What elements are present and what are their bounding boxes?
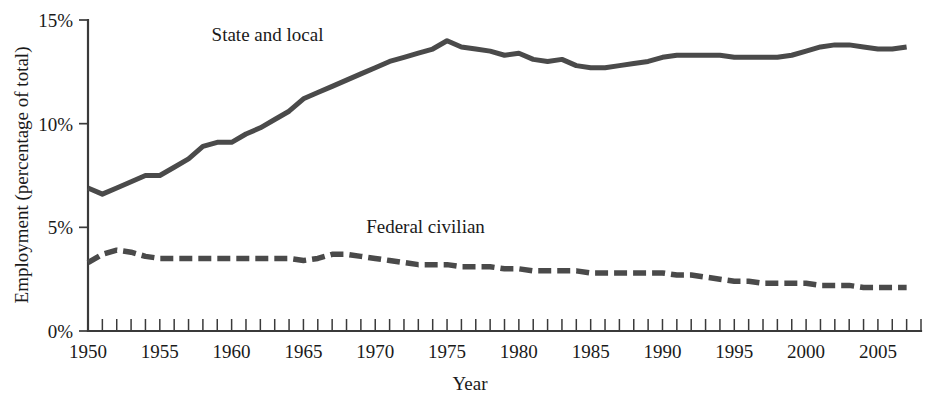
y-tick-label: 15% (38, 10, 73, 31)
x-tick-label: 2000 (787, 341, 825, 362)
x-axis-title: Year (452, 373, 488, 394)
x-tick-label: 2005 (859, 341, 897, 362)
x-tick-label: 1955 (141, 341, 179, 362)
y-tick-label: 0% (48, 321, 74, 342)
x-axis-minor-ticks (88, 319, 921, 331)
y-axis-tick-labels: 0%5%10%15% (38, 10, 73, 342)
y-tick-label: 10% (38, 114, 73, 135)
y-axis-ticks (79, 20, 88, 331)
x-tick-label: 1985 (572, 341, 610, 362)
x-tick-label: 1970 (356, 341, 394, 362)
y-axis-title: Employment (percentage of total) (11, 47, 33, 304)
series-label-federal-civilian: Federal civilian (366, 216, 485, 237)
x-tick-label: 1990 (643, 341, 681, 362)
line-chart: 0%5%10%15% 19501955196019651970197519801… (0, 0, 935, 406)
series-line-federal-civilian (88, 250, 907, 287)
data-series-group (88, 41, 907, 288)
plot-area: 0%5%10%15% 19501955196019651970197519801… (38, 10, 921, 362)
series-label-state-and-local: State and local (212, 24, 324, 45)
y-tick-label: 5% (48, 217, 74, 238)
x-tick-label: 1965 (284, 341, 322, 362)
chart-figure: 0%5%10%15% 19501955196019651970197519801… (0, 0, 935, 406)
x-tick-label: 1980 (500, 341, 538, 362)
x-tick-label: 1995 (715, 341, 753, 362)
series-line-state-and-local (88, 41, 907, 194)
x-tick-label: 1960 (213, 341, 251, 362)
x-axis: 1950195519601965197019751980198519901995… (69, 319, 921, 362)
x-axis-tick-labels: 1950195519601965197019751980198519901995… (69, 341, 897, 362)
x-tick-label: 1975 (428, 341, 466, 362)
y-axis: 0%5%10%15% (38, 10, 88, 342)
x-tick-label: 1950 (69, 341, 107, 362)
